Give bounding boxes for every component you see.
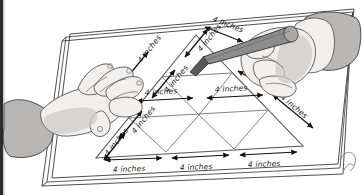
dimension-label: 4 inches [215,83,248,94]
page-left-border-shade [3,0,5,195]
page-left-border [0,0,3,195]
dimension-label: 4 inches [180,162,213,172]
dimension-label: 4 inches [145,86,178,97]
dimension-label: 4 inches [113,164,146,174]
illustration-scene: 4 inches 4 inches 4 inches 4 inches 4 in… [0,0,362,195]
dimension-label: 4 inches [248,159,281,169]
left-finger-4 [109,97,142,117]
